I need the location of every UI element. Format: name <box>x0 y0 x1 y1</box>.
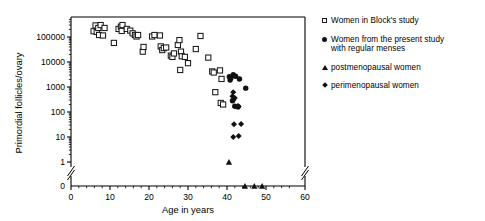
marker-glyph <box>322 65 328 70</box>
y-axis: 1101001000100001000000 <box>36 20 71 191</box>
legend-item[interactable]: perimenopausal women <box>318 81 485 91</box>
legend-item-label: Women from the present study with regula… <box>331 35 444 54</box>
open-square-marker-icon <box>318 16 331 23</box>
data-point-open-square <box>217 68 222 73</box>
y-tick-label: 100000 <box>36 32 65 42</box>
legend-item-label: Women in Block's study <box>331 16 419 26</box>
y-axis-title: Primordial follicles/ovary <box>13 52 24 153</box>
data-point-open-square <box>185 61 190 66</box>
y-tick-label: 1000 <box>46 82 65 92</box>
data-point-open-square <box>171 51 176 56</box>
x-tick-label: 50 <box>261 192 271 202</box>
x-axis: 0102030405060 <box>69 186 310 202</box>
data-point-filled-diamond <box>238 121 244 127</box>
y-tick-label: 10 <box>55 132 65 142</box>
x-tick-label: 10 <box>105 192 115 202</box>
series-group <box>226 159 265 189</box>
series-group <box>91 22 226 107</box>
data-point-open-square <box>206 55 211 60</box>
y-tick-label: 100 <box>51 107 66 117</box>
marker-glyph <box>322 37 327 42</box>
legend-item-label: perimenopausal women <box>331 81 419 91</box>
marker-glyph <box>322 83 328 89</box>
data-point-filled-diamond <box>231 121 237 127</box>
data-point-open-square <box>182 54 187 59</box>
x-tick-label: 20 <box>144 192 154 202</box>
legend-item[interactable]: Women from the present study with regula… <box>318 35 485 54</box>
x-tick-label: 60 <box>300 192 310 202</box>
x-axis-title: Age in years <box>162 204 214 215</box>
filled-diamond-marker-icon <box>318 81 331 87</box>
data-point-open-square <box>141 44 146 49</box>
data-point-open-square <box>164 45 169 50</box>
data-point-open-square <box>198 33 203 38</box>
data-point-open-square <box>213 90 218 95</box>
x-tick-label: 40 <box>222 192 232 202</box>
figure-container: 1101001000100001000000Primordial follicl… <box>0 0 485 221</box>
y-tick-label: 1 <box>60 157 65 167</box>
data-point-open-square <box>177 38 182 43</box>
filled-circle-marker-icon <box>318 35 331 42</box>
x-tick-label: 30 <box>183 192 193 202</box>
chart-legend: Women in Block's studyWomen from the pre… <box>318 16 485 100</box>
data-point-filled-circle <box>237 76 242 81</box>
legend-item[interactable]: postmenopausal women <box>318 63 485 73</box>
axis-frame <box>71 17 305 186</box>
data-point-filled-diamond <box>230 134 236 140</box>
data-point-open-square <box>135 32 140 37</box>
data-point-open-square <box>178 67 183 72</box>
data-point-open-square <box>193 46 198 51</box>
data-point-open-square <box>157 33 162 38</box>
x-tick-label: 0 <box>69 192 74 202</box>
data-point-open-square <box>102 25 107 30</box>
filled-triangle-marker-icon <box>318 63 331 70</box>
legend-item-label: postmenopausal women <box>331 63 421 73</box>
y-tick-label: 10000 <box>41 57 65 67</box>
data-point-filled-diamond <box>236 133 242 139</box>
data-point-open-square <box>219 76 224 81</box>
data-point-open-square <box>111 40 116 45</box>
y-zero-label: 0 <box>60 181 65 191</box>
data-point-open-square <box>100 33 105 38</box>
data-point-open-square <box>119 28 124 33</box>
data-point-open-square <box>211 70 216 75</box>
legend-item[interactable]: Women in Block's study <box>318 16 485 26</box>
data-point-filled-circle <box>243 85 248 90</box>
data-point-open-square <box>152 32 157 37</box>
series-group <box>229 89 244 140</box>
marker-glyph <box>322 18 327 23</box>
data-point-open-square <box>221 102 226 107</box>
data-point-filled-triangle <box>226 159 232 165</box>
